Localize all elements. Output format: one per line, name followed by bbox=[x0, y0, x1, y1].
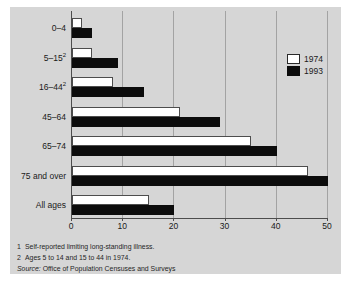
x-tick-mark-50 bbox=[327, 218, 328, 221]
category-cell: 16–442 bbox=[12, 70, 68, 100]
bar-group bbox=[72, 159, 328, 189]
bar-1974 bbox=[72, 77, 113, 87]
category-label: 16–442 bbox=[39, 82, 66, 92]
plot-area bbox=[71, 11, 328, 219]
source-label: Source: bbox=[17, 265, 41, 272]
category-label: 5–152 bbox=[44, 53, 66, 63]
bar-1974 bbox=[72, 18, 82, 28]
category-footnote-marker: 2 bbox=[63, 81, 66, 87]
bar-1993 bbox=[72, 58, 118, 68]
bar-group bbox=[72, 188, 328, 218]
source-line: Source: Office of Population Censuses an… bbox=[17, 263, 337, 274]
bar-1993 bbox=[72, 176, 328, 186]
footnote-2-text: Ages 5 to 14 and 15 to 44 in 1974. bbox=[25, 254, 130, 261]
x-tick-mark-40 bbox=[276, 218, 277, 221]
category-label: All ages bbox=[36, 200, 66, 210]
legend-swatch-1993 bbox=[287, 66, 300, 76]
bar-1974 bbox=[72, 107, 180, 117]
x-axis-tick-labels: 01020304050 bbox=[71, 221, 327, 233]
bar-1993 bbox=[72, 87, 144, 97]
legend-label-1993: 1993 bbox=[304, 66, 323, 76]
bar-group bbox=[72, 11, 328, 41]
category-cell: 75 and over bbox=[12, 159, 68, 189]
category-cell: 5–152 bbox=[12, 41, 68, 71]
x-tick-label-30: 30 bbox=[220, 221, 229, 231]
x-tick-mark-20 bbox=[173, 218, 174, 221]
x-tick-label-0: 0 bbox=[69, 221, 74, 231]
category-axis-labels: 0–45–15216–44245–6465–7475 and overAll a… bbox=[12, 11, 68, 218]
legend-item-1974: 1974 bbox=[287, 53, 323, 65]
bar-1993 bbox=[72, 205, 174, 215]
source-text: Office of Population Censuses and Survey… bbox=[43, 265, 176, 272]
bar-1974 bbox=[72, 166, 308, 176]
category-label: 65–74 bbox=[42, 141, 66, 151]
chart-figure: 0–45–15216–44245–6465–7475 and overAll a… bbox=[0, 0, 349, 287]
category-label: 75 and over bbox=[21, 171, 66, 181]
footnote-1: 1Self-reported limiting long-standing il… bbox=[17, 241, 337, 252]
footnotes: 1Self-reported limiting long-standing il… bbox=[17, 241, 337, 274]
legend-swatch-1974 bbox=[287, 54, 300, 64]
footnote-2-marker: 2 bbox=[17, 252, 25, 263]
bar-group bbox=[72, 100, 328, 130]
footnote-1-marker: 1 bbox=[17, 241, 25, 252]
category-label: 0–4 bbox=[52, 23, 66, 33]
bar-1974 bbox=[72, 48, 92, 58]
x-tick-mark-0 bbox=[71, 218, 72, 221]
category-footnote-marker: 2 bbox=[63, 52, 66, 58]
bar-1974 bbox=[72, 136, 251, 146]
bar-1993 bbox=[72, 146, 277, 156]
category-cell: 0–4 bbox=[12, 11, 68, 41]
bar-1993 bbox=[72, 117, 220, 127]
x-tick-label-10: 10 bbox=[117, 221, 126, 231]
bar-1974 bbox=[72, 195, 149, 205]
category-label: 45–64 bbox=[42, 112, 66, 122]
x-tick-mark-30 bbox=[225, 218, 226, 221]
category-cell: 65–74 bbox=[12, 129, 68, 159]
category-cell: 45–64 bbox=[12, 100, 68, 130]
chart-panel: 0–45–15216–44245–6465–7475 and overAll a… bbox=[10, 7, 341, 274]
footnote-1-text: Self-reported limiting long-standing ill… bbox=[25, 243, 154, 250]
legend-label-1974: 1974 bbox=[304, 54, 323, 64]
x-tick-mark-10 bbox=[122, 218, 123, 221]
category-cell: All ages bbox=[12, 188, 68, 218]
legend-item-1993: 1993 bbox=[287, 65, 323, 77]
legend: 1974 1993 bbox=[287, 53, 323, 77]
bar-group bbox=[72, 129, 328, 159]
bar-1993 bbox=[72, 28, 92, 38]
x-tick-label-50: 50 bbox=[322, 221, 331, 231]
x-tick-label-20: 20 bbox=[169, 221, 178, 231]
x-tick-label-40: 40 bbox=[271, 221, 280, 231]
footnote-2: 2Ages 5 to 14 and 15 to 44 in 1974. bbox=[17, 252, 337, 263]
